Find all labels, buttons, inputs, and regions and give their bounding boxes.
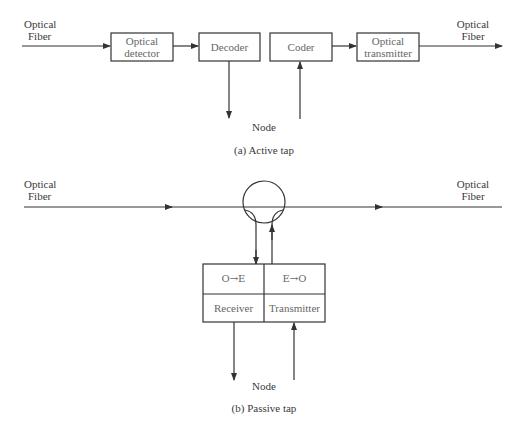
caption-a: (a) Active tap	[214, 144, 314, 156]
label-line: Fiber	[24, 30, 56, 42]
label-line: Fiber	[448, 30, 498, 42]
label-line: Optical	[448, 18, 498, 30]
oe-converter-cell: O→E	[203, 264, 264, 294]
block-label: detector	[124, 47, 159, 59]
label-line: Optical	[24, 18, 56, 30]
input-fiber-label-b: Optical Fiber	[24, 178, 56, 202]
block-label: Optical	[372, 35, 404, 47]
input-fiber-label-a: Optical Fiber	[24, 18, 56, 42]
block-label: Coder	[288, 41, 315, 53]
label-line: Fiber	[24, 190, 56, 202]
label-line: Fiber	[448, 190, 498, 202]
transmitter-cell: Transmitter	[264, 294, 325, 322]
node-label-a: Node	[244, 121, 284, 133]
output-fiber-label-a: Optical Fiber	[448, 18, 498, 42]
label-line: Optical	[24, 178, 56, 190]
decoder-block: Decoder	[199, 33, 260, 61]
diagram-lines	[0, 0, 524, 421]
label-line: Optical	[448, 178, 498, 190]
coder-block: Coder	[270, 33, 332, 61]
eo-converter-cell: E→O	[264, 264, 325, 294]
receiver-cell: Receiver	[203, 294, 264, 322]
block-label: transmitter	[364, 47, 412, 59]
output-fiber-label-b: Optical Fiber	[448, 178, 498, 202]
optical-transmitter-block: Optical transmitter	[357, 33, 419, 61]
optical-detector-block: Optical detector	[111, 33, 173, 61]
block-label: Optical	[126, 35, 158, 47]
node-label-b: Node	[244, 380, 284, 392]
block-label: Decoder	[211, 41, 248, 53]
caption-b: (b) Passive tap	[209, 402, 319, 414]
